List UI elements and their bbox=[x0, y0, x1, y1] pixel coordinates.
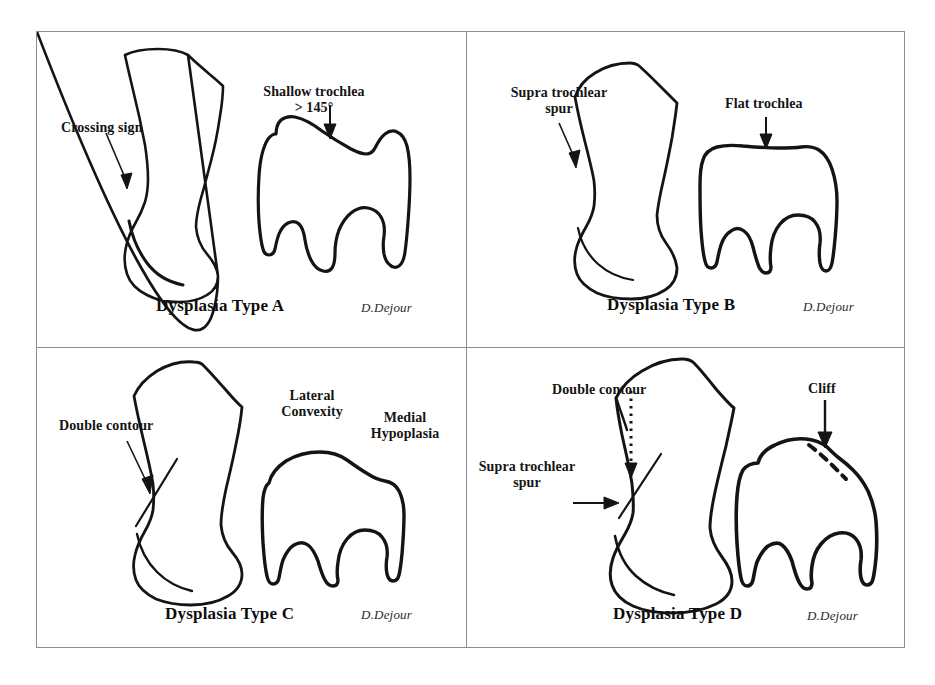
trochlea-axial-outline-a bbox=[258, 117, 410, 272]
double-contour-line-b bbox=[578, 228, 633, 280]
annotation-double-contour-c: Double contour bbox=[59, 418, 153, 434]
cliff-dashed-line bbox=[809, 445, 846, 479]
cliff-arrow-head bbox=[818, 432, 832, 448]
annotation-medial-hypoplasia-line2: Hypoplasia bbox=[371, 426, 440, 441]
annotation-cliff: Cliff bbox=[808, 381, 836, 397]
trochlea-axial-outline-c bbox=[262, 452, 404, 586]
annotation-lateral-convexity: LateralConvexity bbox=[262, 388, 362, 420]
supra-spur-arrow-head-b bbox=[569, 150, 580, 168]
annotation-crossing-sign: Crossing sign bbox=[61, 120, 143, 136]
annotation-double-contour-d: Double contour bbox=[552, 382, 646, 398]
double-contour-arrow-head-d bbox=[625, 463, 637, 478]
annotation-flat-trochlea: Flat trochlea bbox=[725, 96, 803, 112]
annotation-supra-trochlear-spur-d: Supra trochlearspur bbox=[477, 459, 577, 491]
panel-dysplasia-type-a: Crossing sign Shallow trochlea> 145° Dys… bbox=[37, 32, 466, 347]
annotation-medial-hypoplasia: MedialHypoplasia bbox=[355, 410, 455, 442]
crossing-sign-line-a bbox=[129, 221, 183, 285]
annotation-shallow-trochlea-line2: > 145° bbox=[295, 100, 334, 115]
double-contour-line-c bbox=[137, 534, 192, 591]
annotation-medial-hypoplasia-line1: Medial bbox=[384, 410, 427, 425]
panel-c-drawing bbox=[37, 348, 466, 648]
crossing-sign-arrow-shaft bbox=[106, 133, 126, 180]
femur-lateral-outline-a bbox=[37, 32, 223, 330]
panel-dysplasia-type-c: Double contour LateralConvexity MedialHy… bbox=[37, 348, 466, 648]
annotation-shallow-trochlea: Shallow trochlea> 145° bbox=[249, 84, 379, 116]
panel-d-signature: D.Dejour bbox=[807, 608, 858, 624]
annotation-shallow-trochlea-line1: Shallow trochlea bbox=[263, 84, 364, 99]
panel-dysplasia-type-d: Double contour Supra trochlearspur Cliff… bbox=[467, 348, 905, 648]
trochlear-dysplasia-figure: Crossing sign Shallow trochlea> 145° Dys… bbox=[0, 0, 935, 685]
annotation-supra-spur-b-line1: Supra trochlear bbox=[511, 85, 608, 100]
panel-c-signature: D.Dejour bbox=[361, 607, 412, 623]
crossing-sign-arrow-head bbox=[121, 173, 132, 189]
trochlea-axial-outline-b bbox=[700, 145, 837, 273]
double-contour-line-d bbox=[615, 536, 674, 595]
double-contour-arrow-head-c bbox=[142, 475, 153, 494]
panel-d-drawing bbox=[467, 348, 905, 648]
panel-a-title: Dysplasia Type A bbox=[156, 296, 284, 316]
annotation-supra-spur-b-line2: spur bbox=[545, 101, 573, 116]
panel-dysplasia-type-b: Supra trochlearspur Flat trochlea Dyspla… bbox=[467, 32, 905, 347]
annotation-supra-spur-d-line2: spur bbox=[513, 475, 541, 490]
annotation-supra-spur-d-line1: Supra trochlear bbox=[479, 459, 576, 474]
annotation-lateral-convexity-line1: Lateral bbox=[289, 388, 334, 403]
panel-c-title: Dysplasia Type C bbox=[165, 604, 294, 624]
double-contour-straight-c bbox=[136, 459, 177, 526]
annotation-supra-trochlear-spur-b: Supra trochlearspur bbox=[489, 85, 629, 117]
shallow-trochlea-arrow-head bbox=[324, 124, 336, 139]
panel-d-title: Dysplasia Type D bbox=[613, 604, 742, 624]
trochlea-axial-outline-d bbox=[736, 439, 877, 589]
panel-b-signature: D.Dejour bbox=[803, 299, 854, 315]
annotation-lateral-convexity-line2: Convexity bbox=[281, 404, 343, 419]
panel-b-title: Dysplasia Type B bbox=[607, 295, 735, 315]
supra-spur-arrow-head-d bbox=[604, 497, 619, 509]
panel-a-signature: D.Dejour bbox=[361, 300, 412, 316]
